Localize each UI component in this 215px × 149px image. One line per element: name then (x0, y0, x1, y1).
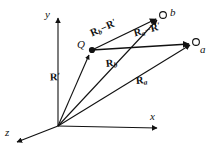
vector-label-R-a: Ra (135, 75, 147, 88)
point-label-b: b (170, 7, 176, 18)
vector-Ra-minus-Rprime-line (92, 44, 189, 50)
vector-diagram: y x z Q b a R′ Rb Ra Rb−R′ Ra−R′ (0, 0, 215, 149)
vector-R-prime-line (58, 55, 89, 126)
vector-R-a-line (58, 45, 190, 126)
x-axis-line (58, 126, 157, 128)
point-label-a: a (200, 44, 206, 55)
point-marker-b (160, 12, 167, 19)
axis-label-x: x (150, 111, 155, 122)
position-vectors (58, 20, 190, 126)
z-axis-line (17, 126, 58, 142)
axis-label-z: z (5, 127, 9, 138)
point-marker-a (193, 39, 200, 46)
axis-label-y: y (45, 9, 50, 20)
vector-label-R-b: Rb (105, 58, 117, 71)
vector-label-R-prime: R′ (50, 72, 60, 83)
point-marker-Q (89, 47, 95, 53)
point-label-Q: Q (77, 39, 85, 50)
